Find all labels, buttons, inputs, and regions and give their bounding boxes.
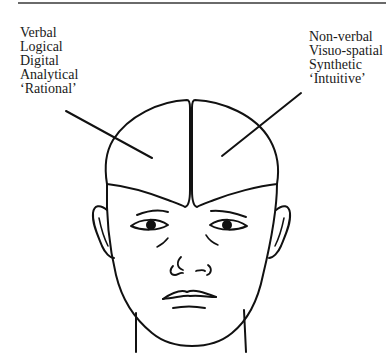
neck-right — [244, 310, 246, 352]
left-eyebrow — [137, 211, 168, 215]
right-pupil — [223, 221, 231, 229]
head-diagram — [0, 0, 386, 364]
right-cheek-line — [206, 235, 218, 245]
mouth-line — [163, 296, 216, 299]
nose-right-wing — [207, 265, 211, 275]
nose-left-nostril — [171, 266, 183, 275]
nose-right-nostril — [196, 270, 205, 271]
right-pointer-line — [222, 93, 301, 156]
lower-lip — [173, 307, 205, 309]
left-pupil — [147, 221, 155, 229]
right-hemisphere-outline — [192, 100, 278, 207]
nose-bridge — [178, 257, 183, 270]
left-cheek-line — [157, 238, 168, 247]
right-eyebrow — [211, 211, 246, 217]
left-hemisphere-outline — [106, 100, 190, 207]
face-outline — [107, 184, 277, 346]
